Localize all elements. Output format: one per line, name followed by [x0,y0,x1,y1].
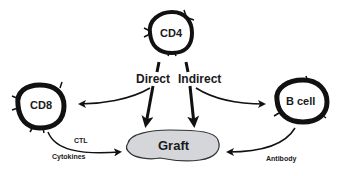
cd8-label: CD8 [30,99,52,111]
indirect-arrow [190,86,194,124]
graft-label: Graft [158,138,189,153]
direct-to-cd8-arrow [80,88,150,104]
ctl-label: CTL [74,137,88,144]
antibody-label: Antibody [266,155,296,162]
direct-label: Direct [136,72,170,86]
indirect-to-bcell-arrow [196,88,264,104]
cd4-label: CD4 [160,27,182,39]
bcell-to-graft-arrow [228,128,295,152]
indirect-label: Indirect [178,72,221,86]
direct-arrow [146,86,153,124]
bcell-label: B cell [286,95,315,107]
cytokines-label: Cytokines [52,153,85,160]
